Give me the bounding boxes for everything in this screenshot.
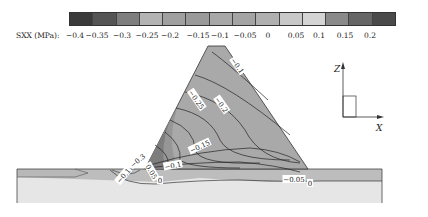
svg-text:−0.05: −0.05 [283,176,304,184]
coordinate-axes: Z X [333,62,384,133]
x-axis-label: X [375,123,383,133]
contour-label: 0 [307,179,313,188]
z-axis-label: Z [333,64,341,74]
z-arrow-icon [341,62,345,69]
contour-plot: −0.1−0.25−0.2−0.15−0.1−0.3−0.10.050−0.05… [0,0,428,217]
svg-text:0: 0 [158,177,162,185]
x-arrow-icon [377,115,384,119]
contour-label: 0 [157,176,163,185]
svg-text:0: 0 [308,180,312,188]
contour-label: −0.05 [283,175,306,184]
foundation [17,169,382,203]
